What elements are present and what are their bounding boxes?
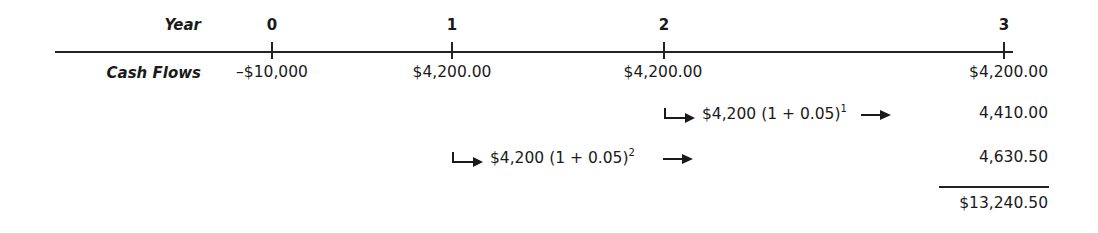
timeline-tick-0 <box>271 42 273 59</box>
timeline-tick-2 <box>663 42 665 59</box>
principal: $4,200 <box>702 105 756 123</box>
compounded-value-1: 4,410.00 <box>979 104 1048 122</box>
cash-flows-label: Cash Flows <box>107 64 201 82</box>
future-value-total: $13,240.50 <box>959 194 1048 212</box>
timeline-axis <box>55 51 1013 53</box>
compounding-row-2: $4,200 (1 + 0.05)2 <box>451 147 694 167</box>
right-arrow-icon <box>662 152 694 166</box>
right-arrow-icon <box>860 108 892 122</box>
compounded-value-2: 4,630.50 <box>979 148 1048 166</box>
timeline-tick-3 <box>1003 42 1005 59</box>
year-label: Year <box>164 16 201 34</box>
growth-factor: (1 + 0.05) <box>549 149 628 167</box>
cash-flow-2: $4,200.00 <box>624 63 703 81</box>
year-1: 1 <box>447 16 457 34</box>
bent-arrow-icon <box>451 151 485 167</box>
exponent: 2 <box>628 147 634 158</box>
growth-factor: (1 + 0.05) <box>761 105 840 123</box>
cash-flow-3: $4,200.00 <box>969 63 1048 81</box>
exponent: 1 <box>840 103 846 114</box>
year-0: 0 <box>267 16 277 34</box>
bent-arrow-icon <box>663 107 697 123</box>
timeline-tick-1 <box>451 42 453 59</box>
year-2: 2 <box>659 16 669 34</box>
principal: $4,200 <box>490 149 544 167</box>
compounding-row-1: $4,200 (1 + 0.05)1 <box>663 103 892 123</box>
sum-rule <box>939 186 1049 188</box>
cash-flow-1: $4,200.00 <box>413 63 492 81</box>
year-3: 3 <box>999 16 1009 34</box>
cash-flow-0: –$10,000 <box>236 63 308 81</box>
